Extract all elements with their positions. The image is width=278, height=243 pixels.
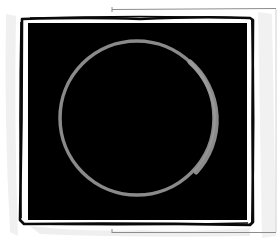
picture-illustration — [0, 0, 278, 243]
framed-picture — [0, 0, 278, 243]
